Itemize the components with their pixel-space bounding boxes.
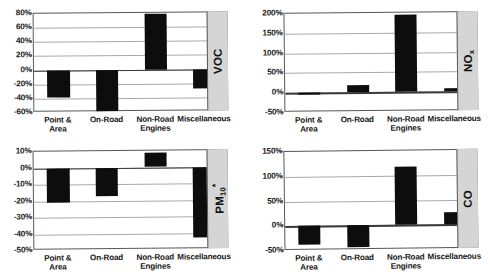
bar: [298, 93, 320, 95]
y-tick-mark: [29, 250, 32, 251]
bar: [96, 70, 119, 111]
bar: [47, 70, 70, 98]
bar: [298, 226, 321, 245]
y-tick-mark: [280, 92, 283, 93]
bar: [96, 168, 119, 196]
chart-panel-pm10: 10%0%-10%-20%-30%-40%-50% PM10* Point & …: [0, 138, 245, 277]
y-tick-mark: [29, 69, 32, 70]
side-panel-nox: NOx: [456, 11, 478, 110]
y-tick-mark: [279, 13, 282, 14]
y-tick-mark: [29, 167, 32, 168]
y-tick-mark: [280, 52, 283, 53]
y-tick-mark: [280, 200, 283, 201]
bar: [395, 14, 418, 91]
bars-nox: [284, 12, 477, 111]
bars-voc: [34, 12, 228, 111]
y-tick-mark: [280, 225, 283, 226]
bar: [144, 14, 167, 69]
bar: [395, 166, 418, 225]
plot-area-co: [283, 149, 478, 250]
chart-panel-voc: 80%60%40%20%0%-20%-40%-60% VOC Point & A…: [0, 0, 245, 138]
x-axis-co: Point & AreaOn-RoadNon-Road EnginesMisce…: [284, 250, 457, 277]
y-tick-mark: [280, 33, 283, 34]
y-tick-mark: [280, 176, 283, 177]
chart-grid: 80%60%40%20%0%-20%-40%-60% VOC Point & A…: [0, 0, 490, 277]
y-tick-mark: [29, 184, 32, 185]
y-tick-mark: [29, 112, 32, 113]
bar: [144, 152, 167, 167]
x-axis-nox: Point & AreaOn-RoadNon-Road EnginesMisce…: [284, 112, 457, 139]
y-tick-mark: [29, 27, 32, 28]
y-tick-mark: [279, 151, 282, 152]
pollutant-label-pm10: PM10*: [210, 183, 225, 213]
chart-panel-co: 150%100%50%0%-50% CO Point & AreaOn-Road…: [245, 138, 490, 277]
side-panel-co: CO: [456, 149, 478, 248]
x-category-label: Miscellaneous: [174, 114, 235, 124]
y-tick-mark: [29, 233, 32, 234]
chart-panel-nox: 200%150%100%50%0%-50% NOx Point & AreaOn…: [245, 0, 490, 138]
side-panel-pm10: PM10*: [206, 149, 228, 248]
x-axis-pm10: Point & AreaOn-RoadNon-Road EnginesMisce…: [33, 250, 207, 277]
bar: [347, 85, 369, 92]
x-category-label: Miscellaneous: [424, 252, 484, 262]
x-axis-voc: Point & AreaOn-RoadNon-Road EnginesMisce…: [33, 112, 207, 138]
side-panel-voc: VOC: [207, 11, 229, 110]
plot-area-pm10: [33, 149, 229, 250]
y-tick-mark: [29, 83, 32, 84]
plot-area-voc: [33, 11, 229, 112]
y-tick-mark: [29, 200, 32, 201]
pollutant-label-nox: NOx: [462, 49, 474, 71]
y-tick-mark: [29, 13, 32, 14]
y-tick-mark: [280, 250, 283, 251]
bars-co: [284, 150, 477, 249]
y-tick-mark: [280, 112, 283, 113]
pollutant-label-co: CO: [462, 189, 474, 207]
y-tick-mark: [29, 41, 32, 42]
x-category-label: Miscellaneous: [174, 252, 235, 262]
plot-area-nox: [283, 11, 478, 112]
bar: [347, 225, 370, 247]
y-tick-mark: [29, 55, 32, 56]
y-tick-mark: [29, 151, 32, 152]
x-category-label: Miscellaneous: [424, 114, 484, 124]
y-tick-mark: [29, 217, 32, 218]
y-tick-mark: [29, 98, 32, 99]
pollutant-label-voc: VOC: [212, 48, 224, 74]
y-tick-mark: [280, 72, 283, 73]
bars-pm10: [34, 150, 228, 249]
bar: [47, 168, 70, 203]
